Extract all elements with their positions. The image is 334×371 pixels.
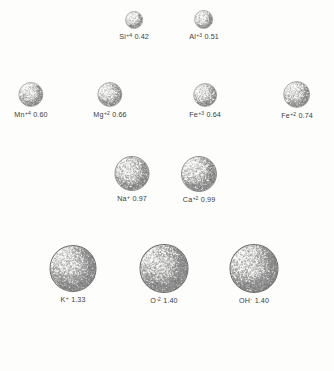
ion-charge: -2	[156, 296, 160, 302]
ion-sphere-graphic	[97, 81, 124, 108]
ion-sphere	[229, 243, 280, 294]
ion-charge: +4	[126, 32, 132, 38]
ion-sphere	[97, 81, 124, 108]
ion-sphere-graphic	[139, 243, 190, 294]
ion-item-mg: Mg+20.66	[93, 81, 126, 119]
ion-symbol: Mg	[93, 110, 103, 119]
ion-sphere	[283, 80, 312, 109]
ion-sphere-graphic	[283, 80, 312, 109]
ion-radius-value: 0.60	[33, 110, 47, 119]
ion-sphere	[124, 10, 144, 30]
ion-radius-value: 0.74	[298, 111, 312, 120]
ion-label: Al+30.51	[189, 32, 219, 41]
ion-sphere	[114, 155, 151, 192]
ion-charge: +2	[193, 195, 199, 201]
ion-charge: +3	[198, 110, 204, 116]
ion-item-ca: Ca+20.99	[180, 155, 218, 204]
ion-symbol: Fe	[189, 110, 198, 119]
ion-sphere	[18, 81, 45, 108]
ion-item-fe: Fe+30.64	[189, 82, 221, 119]
ion-symbol: O	[150, 296, 156, 305]
ion-charge: +3	[196, 32, 202, 38]
ion-sphere-graphic	[229, 243, 280, 294]
ion-sphere-graphic	[180, 155, 218, 193]
ion-charge: -	[250, 296, 252, 302]
ion-item-na: Na+0.97	[114, 155, 151, 203]
ion-radius-value: 0.51	[204, 32, 218, 41]
ion-item-si: Si+40.42	[119, 10, 149, 41]
ion-label: Na+0.97	[114, 194, 151, 203]
ion-label: Mg+20.66	[93, 110, 126, 119]
ion-item-mn: Mn+40.60	[14, 81, 47, 119]
ion-item-o: O-21.40	[139, 243, 190, 305]
ion-sphere-graphic	[192, 82, 218, 108]
ion-label: OH-1.40	[229, 296, 280, 305]
ion-sphere-graphic	[194, 9, 215, 30]
ion-sphere	[194, 9, 215, 30]
ion-charge: +2	[104, 110, 110, 116]
ion-symbol: Fe	[281, 111, 290, 120]
ion-sphere	[49, 244, 98, 293]
ion-sphere	[192, 82, 218, 108]
ion-radius-value: 0.99	[201, 195, 215, 204]
ion-charge: +2	[290, 111, 296, 117]
ion-label: K+1.33	[49, 295, 98, 304]
ion-sphere	[180, 155, 218, 193]
ion-radius-value: 1.33	[71, 295, 85, 304]
ion-radius-value: 0.42	[134, 32, 148, 41]
ion-item-k: K+1.33	[49, 244, 98, 304]
ion-sphere-graphic	[49, 244, 98, 293]
ion-sphere-graphic	[18, 81, 45, 108]
ion-radius-value: 0.66	[112, 110, 126, 119]
ion-label: Fe+30.64	[189, 110, 221, 119]
ion-symbol: Ca	[183, 195, 193, 204]
ion-symbol: Al	[189, 32, 196, 41]
ion-item-fe: Fe+20.74	[281, 80, 313, 120]
ion-label: Mn+40.60	[14, 110, 47, 119]
ion-sphere	[139, 243, 190, 294]
ion-charge: +4	[25, 110, 31, 116]
ion-sphere-graphic	[124, 10, 144, 30]
ion-symbol: Na	[117, 194, 127, 203]
ion-label: Ca+20.99	[180, 195, 218, 204]
ion-symbol: OH	[239, 296, 250, 305]
ion-symbol: Mn	[14, 110, 24, 119]
ion-item-oh: OH-1.40	[229, 243, 280, 305]
ion-radius-value: 0.97	[132, 194, 146, 203]
ion-sphere-graphic	[114, 155, 151, 192]
ion-symbol: Si	[119, 32, 126, 41]
ionic-radii-figure: Si+40.42Al+30.51Mn+40.60Mg+20.66Fe+30.64…	[0, 0, 334, 371]
ion-radius-value: 1.40	[255, 296, 269, 305]
ion-radius-value: 0.64	[206, 110, 220, 119]
ion-label: Si+40.42	[119, 32, 149, 41]
ion-item-al: Al+30.51	[189, 9, 219, 41]
ion-radius-value: 1.40	[163, 296, 177, 305]
ion-charge: +	[66, 295, 69, 301]
ion-label: Fe+20.74	[281, 111, 313, 120]
ion-charge: +	[127, 194, 130, 200]
ion-label: O-21.40	[139, 296, 190, 305]
